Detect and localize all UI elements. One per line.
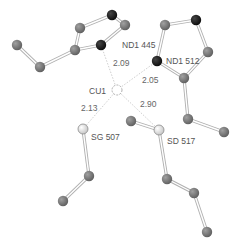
carbon-atom bbox=[75, 23, 85, 33]
distance-cu-sg-507: 2.13 bbox=[81, 103, 98, 113]
carbon-atom bbox=[160, 20, 170, 30]
sulfur-atom bbox=[78, 124, 88, 134]
carbon-atom bbox=[202, 227, 212, 237]
bond bbox=[159, 130, 167, 179]
label-cu1: CU1 bbox=[89, 86, 106, 96]
carbon-atom bbox=[120, 20, 130, 30]
label-nd1-445: ND1 445 bbox=[122, 40, 156, 50]
carbon-atom bbox=[179, 73, 189, 83]
bond bbox=[40, 50, 75, 67]
label-nd1-512: ND1 512 bbox=[166, 56, 200, 66]
carbon-atom bbox=[12, 40, 22, 50]
carbon-atom bbox=[162, 174, 172, 184]
bond bbox=[194, 193, 207, 232]
carbon-atom bbox=[203, 47, 213, 57]
distance-cu-sd-517: 2.90 bbox=[140, 99, 157, 109]
carbon-atom bbox=[183, 114, 193, 124]
distance-cu-nd1-445: 2.09 bbox=[113, 58, 130, 68]
label-sd-517: SD 517 bbox=[167, 136, 196, 146]
carbon-atom bbox=[189, 188, 199, 198]
carbon-atom bbox=[219, 127, 229, 137]
nitrogen-atom bbox=[152, 56, 162, 66]
bond bbox=[63, 176, 89, 201]
bond bbox=[188, 119, 224, 132]
nitrogen-atom bbox=[107, 10, 117, 20]
copper-atom bbox=[112, 85, 122, 95]
sulfur-atom bbox=[154, 125, 164, 135]
label-sg-507: SG 507 bbox=[91, 132, 120, 142]
carbon-atom bbox=[84, 171, 94, 181]
carbon-atom bbox=[35, 62, 45, 72]
bond bbox=[83, 129, 89, 176]
bond bbox=[184, 78, 188, 119]
nitrogen-atom bbox=[96, 40, 106, 50]
bond bbox=[157, 25, 165, 61]
molecular-structure-diagram: CU1 ND1 445 ND1 512 SG 507 SD 517 2.09 2… bbox=[0, 0, 234, 244]
distance-cu-nd1-512: 2.05 bbox=[142, 75, 159, 85]
carbon-atom bbox=[70, 45, 80, 55]
nitrogen-atom bbox=[191, 15, 201, 25]
covalent-bonds bbox=[17, 15, 224, 232]
carbon-atom bbox=[126, 116, 136, 126]
carbon-atom bbox=[58, 196, 68, 206]
